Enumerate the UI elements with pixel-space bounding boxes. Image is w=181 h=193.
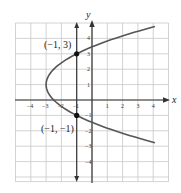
axes: x y xyxy=(15,9,177,183)
vline-down-arrow-icon xyxy=(74,176,79,182)
y-tick-label: 4 xyxy=(87,35,90,41)
y-axis-arrow-icon xyxy=(89,20,94,27)
y-axis-label: y xyxy=(85,9,91,20)
x-tick-label: 1 xyxy=(106,103,109,109)
y-tick-label: −1 xyxy=(85,112,91,118)
point-neg1-neg1 xyxy=(74,113,79,118)
y-tick-label: −4 xyxy=(85,159,91,165)
x-axis-arrow-icon xyxy=(163,97,170,102)
x-tick-label: −4 xyxy=(27,103,33,109)
x-tick-label: 2 xyxy=(121,103,124,109)
x-tick-label: −3 xyxy=(42,103,48,109)
x-tick-label: 3 xyxy=(136,103,139,109)
y-tick-label: −2 xyxy=(85,128,91,134)
x-tick-label: 4 xyxy=(152,103,155,109)
y-tick-label: −3 xyxy=(85,143,91,149)
y-tick-label: 1 xyxy=(87,82,90,88)
y-tick-label: 3 xyxy=(87,51,90,57)
x-axis-label: x xyxy=(171,94,177,105)
point-label-top: (−1, 3) xyxy=(44,39,71,51)
graph: x y −4−3−2−112344321−1−2−3−4 (−1, 3) (−1… xyxy=(0,0,181,193)
x-tick-label: −1 xyxy=(73,103,79,109)
y-tick-label: 2 xyxy=(87,66,90,72)
point-neg1-3 xyxy=(74,51,79,56)
point-label-bottom: (−1, −1) xyxy=(41,123,74,135)
vertical-line-x-neg1 xyxy=(74,22,79,182)
